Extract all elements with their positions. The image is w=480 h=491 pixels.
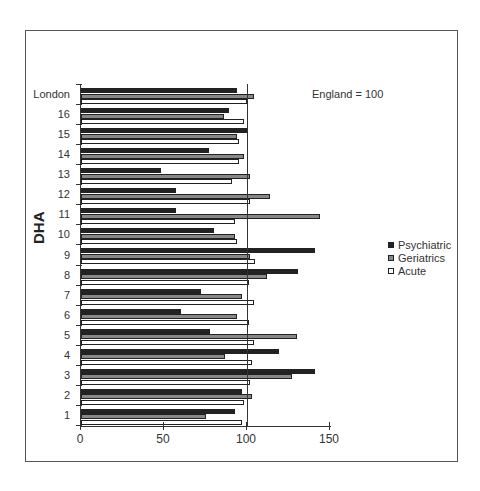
bar-acute — [81, 99, 247, 104]
bar-geriatrics — [81, 374, 292, 379]
bar-psychiatric — [81, 168, 161, 173]
y-tick — [76, 104, 82, 105]
y-category-label: 12 — [30, 188, 70, 200]
y-tick — [76, 305, 82, 306]
y-category-label: 9 — [30, 249, 70, 261]
y-category-label: 6 — [30, 309, 70, 321]
reference-line-100 — [247, 84, 248, 426]
bar-geriatrics — [81, 154, 244, 159]
y-category-label: London — [30, 88, 70, 100]
bar-psychiatric — [81, 329, 210, 334]
y-tick — [76, 184, 82, 185]
y-category-label: 1 — [30, 409, 70, 421]
y-tick — [76, 385, 82, 386]
bar-psychiatric — [81, 188, 176, 193]
bar-acute — [81, 119, 244, 124]
bar-psychiatric — [81, 128, 247, 133]
legend-label: Psychiatric — [398, 239, 451, 251]
bar-geriatrics — [81, 214, 320, 219]
y-category-label: 8 — [30, 269, 70, 281]
psychiatric-swatch-icon — [388, 242, 394, 248]
x-axis — [80, 426, 331, 427]
y-tick — [76, 84, 82, 85]
y-tick — [76, 265, 82, 266]
y-category-label: 10 — [30, 228, 70, 240]
y-tick — [76, 204, 82, 205]
x-tick-label: 100 — [236, 432, 256, 446]
bar-acute — [81, 259, 255, 264]
y-category-label: 7 — [30, 289, 70, 301]
y-category-label: 16 — [30, 108, 70, 120]
bar-psychiatric — [81, 108, 229, 113]
bar-geriatrics — [81, 194, 270, 199]
bar-psychiatric — [81, 289, 201, 294]
geriatrics-swatch-icon — [388, 255, 394, 261]
y-tick — [76, 164, 82, 165]
bar-acute — [81, 420, 242, 425]
y-tick — [76, 144, 82, 145]
bar-acute — [81, 159, 239, 164]
x-tick-label: 0 — [77, 432, 84, 446]
legend-label: Acute — [398, 265, 426, 277]
y-category-label: 14 — [30, 148, 70, 160]
bar-acute — [81, 400, 244, 405]
bar-geriatrics — [81, 234, 235, 239]
bar-geriatrics — [81, 414, 206, 419]
bar-geriatrics — [81, 114, 224, 119]
bar-acute — [81, 280, 249, 285]
bar-psychiatric — [81, 349, 279, 354]
bar-acute — [81, 199, 250, 204]
bar-acute — [81, 340, 254, 345]
acute-swatch-icon — [388, 268, 394, 274]
y-category-label: 15 — [30, 128, 70, 140]
bar-psychiatric — [81, 389, 242, 394]
bar-geriatrics — [81, 134, 237, 139]
legend-item-geriatrics: Geriatrics — [388, 251, 451, 264]
bar-geriatrics — [81, 254, 250, 259]
y-category-label: 2 — [30, 389, 70, 401]
y-tick — [76, 124, 82, 125]
legend: Psychiatric Geriatrics Acute — [388, 238, 451, 277]
bar-psychiatric — [81, 88, 237, 93]
y-tick — [76, 365, 82, 366]
bar-psychiatric — [81, 148, 209, 153]
bar-geriatrics — [81, 174, 250, 179]
y-category-label: 11 — [30, 208, 70, 220]
bar-geriatrics — [81, 394, 252, 399]
bar-geriatrics — [81, 294, 242, 299]
y-axis — [80, 84, 81, 426]
bar-geriatrics — [81, 334, 297, 339]
y-tick — [76, 285, 82, 286]
legend-item-psychiatric: Psychiatric — [388, 238, 451, 251]
bar-acute — [81, 360, 252, 365]
y-tick — [76, 244, 82, 245]
y-tick — [76, 325, 82, 326]
bar-psychiatric — [81, 309, 181, 314]
x-tick-label: 150 — [319, 432, 339, 446]
legend-item-acute: Acute — [388, 264, 451, 277]
x-tick-label: 50 — [156, 432, 169, 446]
bar-acute — [81, 219, 235, 224]
bar-psychiatric — [81, 409, 235, 414]
bar-psychiatric — [81, 228, 214, 233]
y-category-label: 5 — [30, 329, 70, 341]
bar-acute — [81, 320, 249, 325]
bar-acute — [81, 239, 237, 244]
y-tick — [76, 405, 82, 406]
y-tick — [76, 345, 82, 346]
bar-geriatrics — [81, 314, 237, 319]
bar-acute — [81, 300, 254, 305]
bar-psychiatric — [81, 369, 315, 374]
bar-psychiatric — [81, 248, 315, 253]
legend-label: Geriatrics — [398, 252, 445, 264]
bar-psychiatric — [81, 269, 298, 274]
bar-acute — [81, 179, 232, 184]
bar-geriatrics — [81, 94, 254, 99]
bar-acute — [81, 380, 250, 385]
bar-psychiatric — [81, 208, 176, 213]
england-baseline-note: England = 100 — [312, 88, 383, 100]
bar-acute — [81, 139, 239, 144]
y-category-label: 13 — [30, 168, 70, 180]
y-tick — [76, 224, 82, 225]
bar-geriatrics — [81, 354, 225, 359]
